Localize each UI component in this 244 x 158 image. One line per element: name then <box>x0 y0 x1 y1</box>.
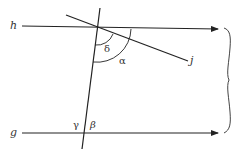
label-h: h <box>10 19 17 32</box>
line-j <box>66 15 188 61</box>
label-delta: δ <box>104 43 110 54</box>
label-gamma: γ <box>73 119 79 130</box>
label-beta: β <box>89 119 96 130</box>
label-alpha: α <box>119 55 126 66</box>
line-h <box>22 26 218 29</box>
label-g: g <box>10 126 17 139</box>
brace <box>224 28 230 133</box>
geometry-diagram: h g j δ α γ β <box>0 0 244 158</box>
